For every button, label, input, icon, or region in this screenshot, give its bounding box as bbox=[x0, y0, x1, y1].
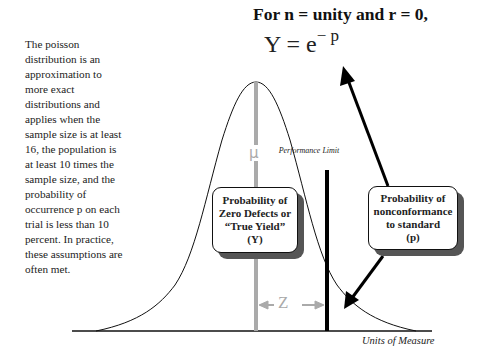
formula-lhs: Y = e bbox=[264, 31, 317, 57]
yield-box-line2: Zero Defects or bbox=[213, 207, 297, 220]
mean-label: μ bbox=[248, 145, 260, 161]
formula-exponent: − p bbox=[317, 26, 339, 45]
nonconformance-box-line4: (p) bbox=[369, 231, 457, 244]
x-axis-label: Units of Measure bbox=[362, 335, 435, 346]
description-text: The poisson distribution is an approxima… bbox=[25, 37, 125, 277]
true-yield-box: Probability of Zero Defects or “True Yie… bbox=[212, 187, 298, 253]
z-label: Z bbox=[278, 294, 288, 311]
formula-equation: Y = e− p bbox=[264, 28, 339, 58]
yield-box-line3: “True Yield” bbox=[213, 220, 297, 233]
nonconformance-box: Probability of nonconformance to standar… bbox=[368, 186, 458, 250]
yield-box-line4: (Y) bbox=[213, 233, 297, 246]
nonconformance-box-line1: Probability of bbox=[369, 192, 457, 205]
yield-box-line1: Probability of bbox=[213, 194, 297, 207]
nonconformance-box-line2: nonconformance bbox=[369, 205, 457, 218]
z-dimension-arrows bbox=[259, 301, 324, 309]
formula-heading: For n = unity and r = 0, bbox=[253, 4, 428, 25]
poisson-diagram: The poisson distribution is an approxima… bbox=[0, 0, 483, 357]
nonconformance-box-line3: to standard bbox=[369, 218, 457, 231]
arrow-to-tail bbox=[344, 256, 383, 309]
arrow-to-formula bbox=[340, 66, 388, 186]
performance-limit-label: Performance Limit bbox=[278, 146, 340, 156]
